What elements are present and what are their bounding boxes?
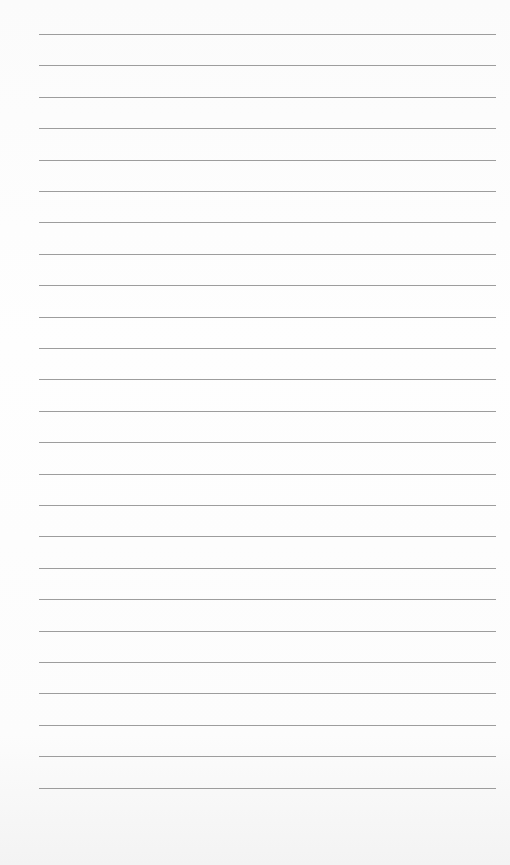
ruled-line [39, 222, 496, 223]
ruled-line [39, 285, 496, 286]
ruled-line [39, 756, 496, 757]
ruled-line [39, 442, 496, 443]
ruled-line [39, 317, 496, 318]
lined-paper-page [0, 0, 510, 865]
ruled-line [39, 128, 496, 129]
ruled-line [39, 599, 496, 600]
ruled-line [39, 536, 496, 537]
ruled-line [39, 34, 496, 35]
ruled-line [39, 97, 496, 98]
ruled-line [39, 788, 496, 789]
ruled-line [39, 348, 496, 349]
ruled-line [39, 191, 496, 192]
ruled-line [39, 662, 496, 663]
ruled-line [39, 379, 496, 380]
ruled-line [39, 254, 496, 255]
ruled-line [39, 631, 496, 632]
ruled-line [39, 160, 496, 161]
ruled-line [39, 505, 496, 506]
ruled-line [39, 65, 496, 66]
ruled-line [39, 474, 496, 475]
ruled-line [39, 693, 496, 694]
ruled-line [39, 411, 496, 412]
ruled-line [39, 725, 496, 726]
ruled-line [39, 568, 496, 569]
